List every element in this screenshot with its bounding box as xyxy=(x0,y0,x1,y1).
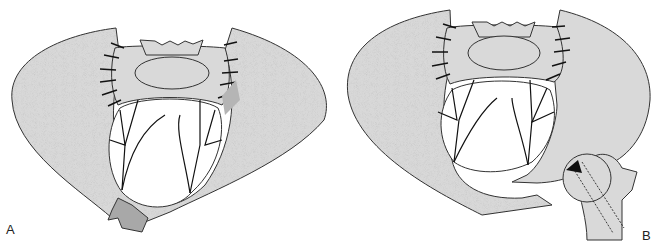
vertebral-body xyxy=(135,57,209,89)
pelvis-diagram-b xyxy=(332,0,664,250)
panel-b: B xyxy=(332,0,664,250)
panel-label-a: A xyxy=(6,222,15,237)
panel-a: A xyxy=(0,0,332,250)
vertebral-body xyxy=(468,36,540,70)
panel-label-b: B xyxy=(642,228,651,243)
femoral-head xyxy=(563,154,611,202)
sacral-crest xyxy=(140,40,203,55)
pelvis-diagram-a xyxy=(0,0,332,250)
sacral-crest xyxy=(472,22,535,37)
